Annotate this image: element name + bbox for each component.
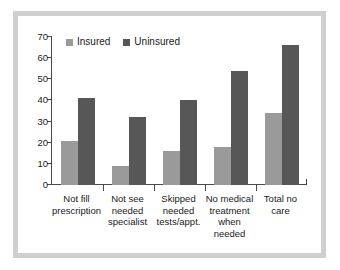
x-axis-label-line: when xyxy=(200,216,259,228)
chart-figure-frame: 010203040506070 InsuredUninsured Not fil… xyxy=(13,11,326,258)
x-axis-category-tick xyxy=(256,185,257,191)
bar-uninsured xyxy=(180,100,197,185)
plot-area: 010203040506070 InsuredUninsured Not fil… xyxy=(18,16,331,263)
x-axis-label-line: care xyxy=(251,205,310,217)
chart-canvas: 010203040506070 InsuredUninsured Not fil… xyxy=(18,16,321,253)
legend-swatch-uninsured xyxy=(123,39,130,46)
x-axis-label-line: Total no xyxy=(251,193,310,205)
x-axis-category-tick xyxy=(154,185,155,191)
bar-uninsured xyxy=(282,45,299,185)
x-axis-label: Total nocare xyxy=(251,193,310,216)
chart-legend: InsuredUninsured xyxy=(66,37,180,47)
x-axis-category-tick xyxy=(103,185,104,191)
legend-item: Insured xyxy=(66,37,110,47)
legend-swatch-insured xyxy=(66,39,73,46)
legend-item: Uninsured xyxy=(123,37,180,47)
x-axis-labels: Not fillprescriptionNot seeneededspecial… xyxy=(51,193,308,259)
bar-insured xyxy=(214,147,231,185)
legend-label: Uninsured xyxy=(134,37,180,47)
x-axis-category-tick xyxy=(205,185,206,191)
bar-insured xyxy=(163,151,180,185)
bar-uninsured xyxy=(231,71,248,185)
bar-uninsured xyxy=(78,98,95,185)
bar-insured xyxy=(265,113,282,185)
legend-label: Insured xyxy=(77,37,110,47)
bar-insured xyxy=(112,166,129,185)
bar-uninsured xyxy=(129,117,146,185)
x-axis-label-line: needed xyxy=(200,228,259,240)
bar-insured xyxy=(61,141,78,185)
